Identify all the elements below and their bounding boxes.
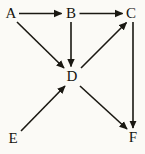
edge-d-to-f bbox=[80, 86, 127, 129]
node-c: C bbox=[123, 6, 139, 21]
node-b: B bbox=[63, 6, 79, 21]
edge-a-to-d bbox=[17, 22, 64, 68]
node-f: F bbox=[125, 130, 141, 145]
edge-e-to-d bbox=[21, 86, 65, 131]
node-d: D bbox=[64, 69, 80, 84]
edge-d-to-c bbox=[81, 23, 127, 69]
node-a: A bbox=[3, 6, 19, 21]
directed-graph-figure: A B C D E F bbox=[0, 0, 145, 154]
node-e: E bbox=[5, 131, 21, 146]
